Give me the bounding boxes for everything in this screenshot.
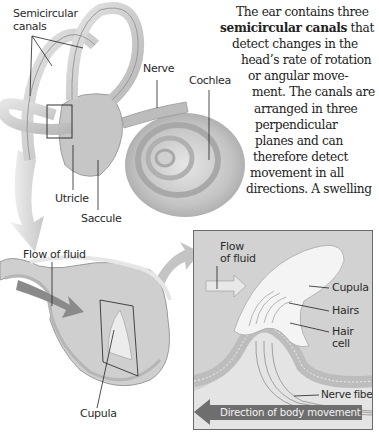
text-line-2: semicircular canals that xyxy=(0,20,379,36)
text-line-8: perpendicular xyxy=(0,117,379,133)
inset-flow-line2: of fluid xyxy=(220,252,256,265)
text-line-1: The ear contains three xyxy=(0,4,379,20)
text-line-9: planes and can xyxy=(0,133,379,149)
text-line-4: head’s rate of rotation xyxy=(0,52,379,68)
text-bold-term: semicircular canals xyxy=(220,21,347,35)
inset-hair-cell-line2: cell xyxy=(332,337,350,350)
text-line-7: arranged in three xyxy=(0,101,379,117)
inset-label-nerve-fibers: Nerve fibers xyxy=(321,388,373,400)
cupula-detail-inset: Flow of fluid Cupula Hairs Hair cell Ner… xyxy=(193,230,373,430)
text-line-10: therefore detect xyxy=(0,149,379,165)
inset-label-cupula: Cupula xyxy=(332,281,369,294)
body-paragraph: The ear contains three semicircular cana… xyxy=(0,4,379,197)
canal-section xyxy=(0,257,170,408)
inset-label-hair-cell: Hair cell xyxy=(332,326,353,350)
direction-banner: Direction of body movement xyxy=(204,405,362,420)
text-line-2-rest: that xyxy=(347,21,374,35)
text-line-5: or angular move- xyxy=(0,68,379,84)
text-line-11: movement in all xyxy=(0,165,379,181)
text-line-12: directions. A swelling xyxy=(0,181,379,197)
text-line-3: detect changes in the xyxy=(0,36,379,52)
label-flow-of-fluid: Flow of fluid xyxy=(23,248,86,261)
label-cupula-section: Cupula xyxy=(80,407,117,420)
inset-label-flow: Flow of fluid xyxy=(220,241,256,265)
text-line-6: ment. The canals are xyxy=(0,84,379,100)
label-saccule: Saccule xyxy=(81,212,122,225)
inset-label-hairs: Hairs xyxy=(332,304,359,317)
